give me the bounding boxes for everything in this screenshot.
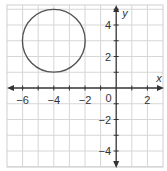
x-tick-label: −4 — [48, 94, 61, 106]
y-tick-label: 2 — [105, 51, 111, 63]
y-axis-up-arrow-icon — [113, 5, 119, 12]
x-tick-label: −6 — [16, 94, 29, 106]
x-axis — [7, 85, 164, 91]
x-tick-label: −2 — [79, 94, 92, 106]
y-tick-label: −4 — [98, 145, 111, 157]
y-tick-label: 4 — [105, 19, 111, 31]
y-tick-label: −2 — [98, 114, 111, 126]
origin-label: 0 — [105, 92, 111, 104]
x-axis-left-arrow-icon — [7, 85, 14, 91]
coordinate-plane: −6 −4 −2 0 2 4 2 −2 −4 x y — [0, 0, 167, 171]
y-axis — [113, 5, 119, 168]
x-tick-label: 2 — [144, 94, 150, 106]
x-axis-label: x — [155, 72, 162, 84]
